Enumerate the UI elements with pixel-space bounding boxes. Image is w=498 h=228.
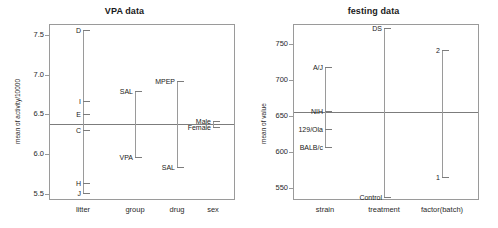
level-label: I — [21, 97, 81, 104]
level-tick — [213, 121, 220, 122]
y-tick-mark — [45, 75, 49, 76]
x-axis-factor-label: factor(batch) — [421, 205, 463, 214]
level-tick — [135, 157, 142, 158]
level-label: SAL — [73, 88, 133, 95]
level-label: DS — [322, 25, 382, 32]
level-label: H — [21, 180, 81, 187]
factor-spine-factor(batch) — [442, 50, 443, 177]
chart-title-festing: festing data — [249, 6, 498, 16]
y-tick-label: 7.0 — [21, 70, 44, 79]
level-tick — [384, 197, 391, 198]
level-tick — [325, 111, 332, 112]
y-tick-mark — [289, 188, 293, 189]
level-tick — [384, 28, 391, 29]
y-tick-mark — [289, 116, 293, 117]
level-label: NIH — [263, 107, 323, 114]
level-label: 2 — [380, 46, 440, 53]
chart-title-vpa: VPA data — [0, 6, 249, 16]
chart-panel-vpa: VPA data mean of activity/100005.56.06.5… — [0, 0, 249, 228]
x-axis-factor-label: group — [125, 205, 144, 214]
level-tick — [177, 167, 184, 168]
level-label: SAL — [115, 163, 175, 170]
chart-panel-festing: festing data mean of value55060065070075… — [249, 0, 498, 228]
level-label: C — [21, 127, 81, 134]
level-tick — [213, 127, 220, 128]
factor-spine-strain — [325, 67, 326, 147]
level-label: Female — [151, 124, 211, 131]
level-tick — [83, 130, 90, 131]
level-label: A/J — [263, 64, 323, 71]
level-tick — [442, 177, 449, 178]
level-tick — [83, 101, 90, 102]
level-tick — [135, 91, 142, 92]
level-label: BALB/c — [263, 143, 323, 150]
y-axis-label-vpa: mean of activity/10000 — [14, 79, 21, 144]
x-axis-factor-label: litter — [76, 205, 90, 214]
y-tick-mark — [45, 35, 49, 36]
y-tick-label: 750 — [265, 39, 288, 48]
y-tick-label: 700 — [265, 75, 288, 84]
level-label: J — [21, 189, 81, 196]
level-tick — [325, 147, 332, 148]
level-tick — [325, 129, 332, 130]
level-label: D — [21, 26, 81, 33]
level-tick — [83, 30, 90, 31]
x-axis-factor-label: drug — [169, 205, 184, 214]
level-label: 129/Ola — [263, 125, 323, 132]
level-tick — [177, 81, 184, 82]
figure-root: VPA data mean of activity/100005.56.06.5… — [0, 0, 498, 228]
y-tick-mark — [289, 152, 293, 153]
level-tick — [83, 183, 90, 184]
factor-spine-group — [135, 91, 136, 157]
y-tick-label: 6.0 — [21, 149, 44, 158]
y-tick-mark — [289, 80, 293, 81]
level-label: E — [21, 111, 81, 118]
level-label: VPA — [73, 154, 133, 161]
x-axis-factor-label: treatment — [368, 205, 400, 214]
factor-spine-treatment — [384, 28, 385, 197]
level-tick — [83, 193, 90, 194]
level-label: 1 — [380, 174, 440, 181]
y-tick-label: 550 — [265, 183, 288, 192]
factor-spine-litter — [83, 30, 84, 193]
level-label: MPEP — [115, 78, 175, 85]
level-tick — [83, 114, 90, 115]
level-tick — [442, 50, 449, 51]
x-axis-factor-label: strain — [316, 205, 334, 214]
x-axis-factor-label: sex — [207, 205, 219, 214]
y-tick-mark — [45, 154, 49, 155]
y-tick-mark — [289, 44, 293, 45]
level-label: Control — [322, 194, 382, 201]
level-tick — [325, 67, 332, 68]
